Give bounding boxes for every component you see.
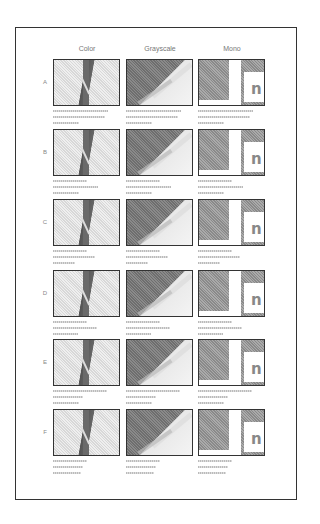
row-label: A — [40, 79, 50, 85]
thumbnail-mono: n — [198, 59, 265, 106]
caption-line — [126, 460, 160, 462]
thumbnail-grayscale — [126, 59, 193, 106]
caption-line — [53, 186, 98, 188]
row-label: B — [40, 149, 50, 155]
caption-line — [126, 122, 152, 124]
caption-line — [53, 327, 97, 329]
caption-line — [53, 116, 105, 118]
caption-line — [53, 256, 95, 258]
caption-line — [53, 460, 87, 462]
caption-line — [53, 321, 87, 323]
caption-line — [126, 186, 171, 188]
caption-line — [53, 402, 79, 404]
row-label: F — [40, 429, 50, 435]
thumbnail-color — [53, 270, 120, 317]
caption-line — [198, 116, 250, 118]
thumbnail-grayscale — [126, 339, 193, 386]
caption-line — [126, 327, 170, 329]
caption-line — [198, 262, 220, 264]
caption-line — [198, 396, 228, 398]
thumbnail-color — [53, 199, 120, 246]
thumbnail-grayscale — [126, 409, 193, 456]
caption-line — [53, 333, 78, 335]
caption-line — [53, 472, 81, 474]
caption-line — [198, 327, 242, 329]
thumbnail-mono: n — [198, 199, 265, 246]
caption-line — [198, 402, 224, 404]
caption-line — [53, 180, 87, 182]
thumbnail-grayscale — [126, 270, 193, 317]
caption-line — [126, 262, 148, 264]
row-label: C — [40, 219, 50, 225]
caption-line — [198, 180, 232, 182]
thumbnail-color — [53, 59, 120, 106]
row-label: D — [40, 290, 50, 296]
caption-line — [198, 110, 253, 112]
thumbnail-color — [53, 339, 120, 386]
caption-line — [198, 460, 232, 462]
caption-line — [198, 466, 228, 468]
caption-line — [198, 333, 223, 335]
caption-line — [126, 321, 160, 323]
thumbnail-mono: n — [198, 339, 265, 386]
caption-line — [126, 472, 154, 474]
n-glyph-icon: n — [251, 152, 262, 166]
caption-line — [53, 250, 87, 252]
caption-line — [53, 466, 83, 468]
thumbnail-grayscale — [126, 129, 193, 176]
column-header-color: Color — [53, 45, 121, 52]
caption-line — [198, 390, 252, 392]
caption-line — [198, 256, 240, 258]
thumbnail-grayscale — [126, 199, 193, 246]
caption-line — [126, 110, 181, 112]
caption-line — [53, 122, 79, 124]
caption-line — [198, 122, 224, 124]
caption-line — [53, 262, 75, 264]
caption-line — [126, 402, 152, 404]
caption-line — [126, 116, 178, 118]
column-header-mono: Mono — [198, 45, 266, 52]
caption-line — [126, 180, 160, 182]
thumbnail-mono: n — [198, 129, 265, 176]
caption-line — [198, 472, 226, 474]
n-glyph-icon: n — [251, 432, 262, 446]
caption-line — [53, 192, 79, 194]
caption-line — [126, 466, 156, 468]
thumbnail-color — [53, 409, 120, 456]
n-glyph-icon: n — [251, 82, 262, 96]
caption-line — [198, 250, 232, 252]
n-glyph-icon: n — [251, 362, 262, 376]
caption-line — [126, 396, 156, 398]
caption-line — [126, 192, 152, 194]
caption-line — [126, 390, 180, 392]
caption-line — [198, 321, 232, 323]
caption-line — [53, 110, 108, 112]
thumbnail-color — [53, 129, 120, 176]
caption-line — [198, 186, 243, 188]
caption-line — [126, 256, 168, 258]
caption-line — [126, 333, 151, 335]
n-glyph-icon: n — [251, 293, 262, 307]
column-header-grayscale: Grayscale — [126, 45, 194, 52]
caption-line — [198, 192, 224, 194]
row-label: E — [40, 359, 50, 365]
caption-line — [126, 250, 160, 252]
caption-line — [53, 390, 107, 392]
thumbnail-mono: n — [198, 409, 265, 456]
n-glyph-icon: n — [251, 222, 262, 236]
thumbnail-mono: n — [198, 270, 265, 317]
caption-line — [53, 396, 83, 398]
